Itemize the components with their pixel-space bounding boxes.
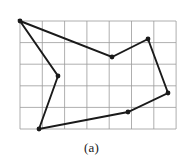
vertex-marker-right-mid [166,91,171,96]
figure-caption: (a) [0,140,183,156]
grid-lines [20,21,176,129]
vertex-marker-left-mid [56,74,61,79]
vertex-marker-top-right [146,37,151,42]
vertex-marker-bottom-left [37,127,42,132]
figure-container: (a) [0,0,183,167]
vertex-marker-top-left [18,19,23,24]
vertex-marker-mid-notch [110,55,115,60]
vertex-markers [18,19,171,132]
vertex-marker-bottom-mid [126,110,131,115]
